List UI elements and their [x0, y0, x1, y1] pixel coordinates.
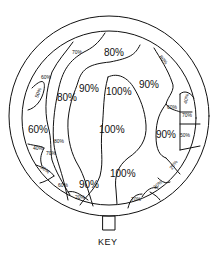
- key-box: [103, 216, 115, 230]
- label-70-bottom: 70%: [131, 196, 142, 202]
- contour-lines: [28, 33, 200, 208]
- label-70-right: 70%: [182, 112, 193, 118]
- label-50-left: 50%: [33, 86, 42, 98]
- label-20-bottom: 20%: [75, 194, 86, 200]
- label-40-left: 40%: [33, 145, 44, 151]
- label-60-lower: 60%: [58, 182, 69, 188]
- label-80-upper-right: 80%: [158, 54, 169, 66]
- label-50-right: 50%: [180, 132, 191, 138]
- label-70-top: 70%: [72, 49, 83, 55]
- label-80-left: 80%: [57, 92, 77, 103]
- label-100-center: 100%: [99, 124, 125, 135]
- label-90-right: 90%: [139, 79, 159, 90]
- label-100-lower: 100%: [110, 168, 136, 179]
- label-60-left: 60%: [28, 124, 48, 135]
- label-90-right-lower: 90%: [156, 129, 176, 140]
- label-60-upper-left: 60%: [41, 74, 52, 80]
- label-80-top: 80%: [104, 47, 124, 58]
- label-40-right: 40%: [182, 93, 190, 104]
- key-label: KEY: [98, 237, 118, 247]
- label-100-upper: 100%: [106, 86, 132, 97]
- label-90-lower: 90%: [79, 179, 99, 190]
- label-20-right: 20%: [168, 158, 179, 170]
- coverage-diagram: 80% 90% 100% 90% 80% 60% 100% 90% 100% 9…: [0, 0, 218, 263]
- label-80-left-lower: 80%: [54, 138, 65, 144]
- label-90-left: 90%: [79, 83, 99, 94]
- label-60-right: 60%: [167, 104, 178, 110]
- label-70-left-lower: 70%: [46, 150, 57, 156]
- outer-circle: [9, 16, 209, 216]
